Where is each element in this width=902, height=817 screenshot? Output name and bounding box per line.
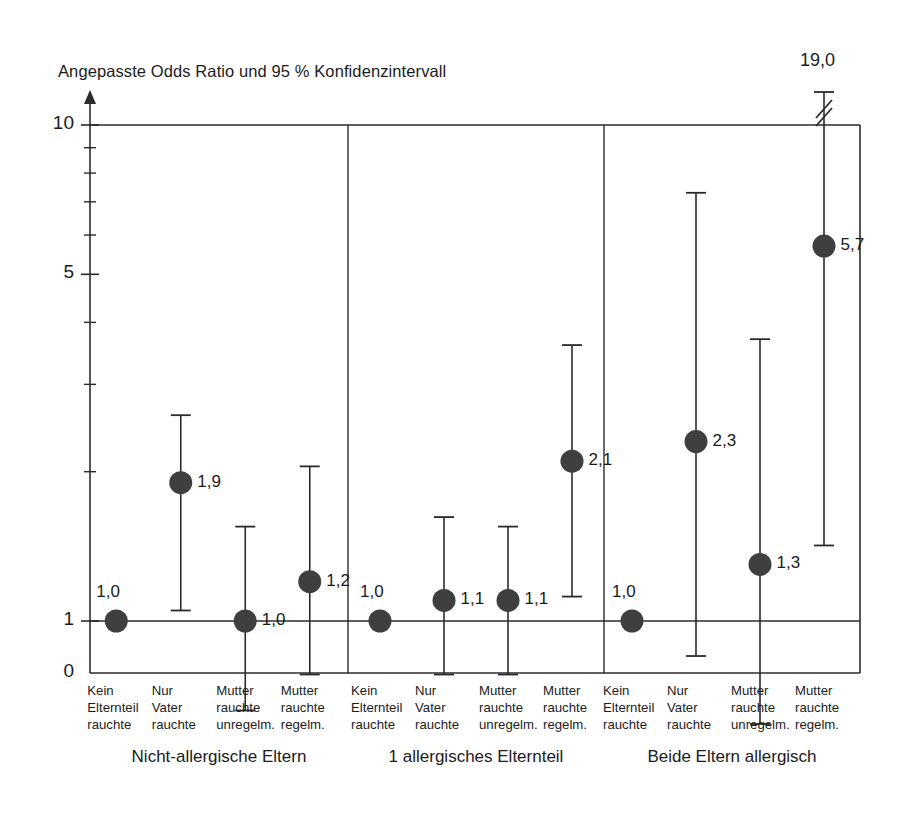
y-tick-label-10: 10 [28,112,74,134]
group-label-2: 1 allergisches Elternteil [348,747,604,767]
y-tick-label-1: 1 [28,608,74,630]
category-label-g2-c2: Nur Vater rauchte [415,682,487,733]
y-axis-arrow-icon [84,90,96,104]
y-tick-label-0: 0 [28,660,74,682]
data-point-g1-c3-marker [234,610,257,633]
data-point-g2-c1-marker [369,610,392,633]
data-point-g1-c4-marker [298,570,321,593]
category-label-g2-c3: Mutter rauchte unregelm. [479,682,551,733]
data-point-g1-c4-value-label: 1,2 [326,571,350,591]
data-point-g2-c1-value-label: 1,0 [360,582,384,602]
data-point-g2-c2-marker [433,589,456,612]
data-point-g3-c1-value-label: 1,0 [612,582,636,602]
category-label-g3-c1: Kein Elternteil rauchte [603,682,675,733]
data-point-g3-c1-marker [621,610,644,633]
data-point-g1-c1-marker [105,610,128,633]
category-label-g2-c1: Kein Elternteil rauchte [351,682,423,733]
data-point-g3-c2-value-label: 2,3 [713,431,737,451]
category-label-g1-c4: Mutter rauchte regelm. [281,682,353,733]
category-label-g3-c2: Nur Vater rauchte [667,682,739,733]
data-point-g1-c2-marker [169,471,192,494]
data-point-g3-c4-marker [813,235,836,258]
forest-plot-chart: 10510Angepasste Odds Ratio und 95 % Konf… [0,0,902,817]
data-point-g1-c3-value-label: 1,0 [262,610,286,630]
data-point-g3-c2-marker [685,430,708,453]
data-point-g3-c4-value-label: 5,7 [841,235,865,255]
data-point-g3-c3-marker [749,553,772,576]
data-point-g1-c2-value-label: 1,9 [197,472,221,492]
data-point-g2-c4-value-label: 2,1 [589,450,613,470]
data-point-g3-c3-value-label: 1,3 [777,553,801,573]
group-label-1: Nicht-allergische Eltern [90,747,348,767]
data-point-g1-c1-value-label: 1,0 [96,582,120,602]
data-point-g3-c4-ci-high-label: 19,0 [800,50,835,71]
data-point-g2-c4-marker [561,450,584,473]
category-label-g1-c1: Kein Elternteil rauchte [87,682,159,733]
category-label-g3-c4: Mutter rauchte regelm. [795,682,867,733]
y-tick-label-5: 5 [28,261,74,283]
group-label-3: Beide Eltern allergisch [604,747,860,767]
category-label-g3-c3: Mutter rauchte unregelm. [731,682,803,733]
category-label-g1-c3: Mutter rauchte unregelm. [216,682,288,733]
category-label-g1-c2: Nur Vater rauchte [152,682,224,733]
chart-axis-title: Angepasste Odds Ratio und 95 % Konfidenz… [58,62,446,81]
data-point-g2-c3-value-label: 1,1 [525,589,549,609]
data-point-g2-c3-marker [497,589,520,612]
data-point-g2-c2-value-label: 1,1 [461,589,485,609]
